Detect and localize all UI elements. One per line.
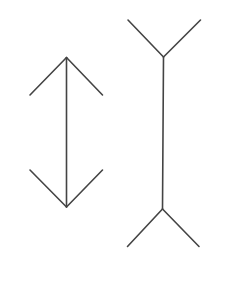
fin-line — [67, 58, 103, 96]
fin-line — [164, 20, 201, 57]
fin-line — [67, 170, 103, 207]
fin-line — [128, 20, 164, 57]
fin-line — [30, 170, 67, 207]
shaft-line — [163, 57, 164, 209]
fin-line — [128, 209, 163, 247]
fin-line — [30, 58, 67, 96]
inward-fin-figure — [128, 20, 201, 247]
fin-line — [163, 209, 200, 247]
outward-arrow-figure — [30, 58, 103, 208]
muller-lyer-diagram — [0, 0, 232, 287]
diagram-svg — [0, 0, 232, 287]
